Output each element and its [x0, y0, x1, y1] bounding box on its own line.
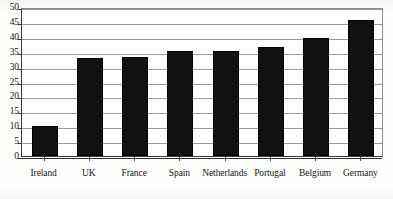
x-tick-mark-portugal [270, 157, 271, 161]
bar-uk [77, 58, 103, 156]
plot-area [21, 8, 383, 157]
bar-ireland [32, 126, 58, 156]
y-tick-label-0: 0 [2, 152, 19, 162]
y-tick-mark-20 [18, 98, 22, 99]
y-tick-label-50: 50 [2, 3, 19, 13]
y-tick-label-40: 40 [2, 33, 19, 43]
y-tick-mark-15 [18, 113, 22, 114]
x-axis: IrelandUKFranceSpainNetherlandsPortugalB… [21, 168, 383, 184]
y-tick-mark-5 [18, 143, 22, 144]
y-tick-label-45: 45 [2, 18, 19, 28]
y-tick-mark-45 [18, 24, 22, 25]
x-tick-mark-belgium [315, 157, 316, 161]
x-tick-label-portugal: Portugal [247, 168, 292, 179]
bar-portugal [258, 47, 284, 156]
x-tick-mark-uk [89, 157, 90, 161]
y-tick-label-25: 25 [2, 78, 19, 88]
y-tick-mark-0 [18, 158, 22, 159]
x-tick-mark-spain [179, 157, 180, 161]
bar-netherlands [213, 51, 239, 156]
y-tick-mark-50 [18, 9, 22, 10]
bar-chart-figure: 05101520253035404550 IrelandUKFranceSpai… [0, 0, 393, 199]
y-tick-mark-10 [18, 128, 22, 129]
x-tick-mark-germany [360, 157, 361, 161]
y-tick-mark-30 [18, 69, 22, 70]
y-tick-mark-40 [18, 39, 22, 40]
y-axis: 05101520253035404550 [0, 8, 19, 157]
y-tick-label-30: 30 [2, 63, 19, 73]
y-tick-label-5: 5 [2, 137, 19, 147]
x-tick-label-uk: UK [66, 168, 111, 179]
bar-france [122, 57, 148, 156]
x-tick-label-ireland: Ireland [21, 168, 66, 179]
x-tick-mark-ireland [44, 157, 45, 161]
x-tick-mark-france [134, 157, 135, 161]
y-tick-mark-25 [18, 84, 22, 85]
bar-germany [348, 20, 374, 156]
y-tick-label-10: 10 [2, 122, 19, 132]
x-tick-label-spain: Spain [157, 168, 202, 179]
bar-spain [167, 51, 193, 156]
bar-belgium [303, 38, 329, 156]
y-tick-label-35: 35 [2, 48, 19, 58]
x-tick-label-germany: Germany [338, 168, 383, 179]
x-tick-mark-netherlands [225, 157, 226, 161]
gridline-0 [22, 158, 382, 159]
x-tick-label-belgium: Belgium [293, 168, 338, 179]
x-tick-label-netherlands: Netherlands [202, 168, 247, 179]
bars-group [22, 9, 382, 156]
y-tick-label-15: 15 [2, 107, 19, 117]
x-tick-label-france: France [112, 168, 157, 179]
y-tick-label-20: 20 [2, 92, 19, 102]
y-tick-mark-35 [18, 54, 22, 55]
